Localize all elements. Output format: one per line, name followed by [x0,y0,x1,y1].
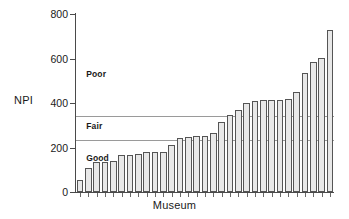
y-tick-800 [70,14,75,15]
y-tick-label-200: 200 [50,142,68,154]
bar [310,62,317,192]
x-tick [322,193,323,197]
x-tick [122,193,123,197]
x-tick [280,193,281,197]
x-tick [205,193,206,197]
x-tick [163,193,164,197]
x-tick [172,193,173,197]
bar [285,99,292,192]
bar [243,103,250,192]
bar [185,137,192,192]
bar [302,73,309,192]
bar [210,133,217,192]
bar [143,152,150,192]
bar [152,152,159,192]
bar [202,136,209,192]
x-tick [230,193,231,197]
bar [168,145,175,192]
x-tick [147,193,148,197]
y-tick-label-600: 600 [50,53,68,65]
y-tick-label-800: 800 [50,8,68,20]
x-tick [288,193,289,197]
x-tick [222,193,223,197]
bar [277,100,284,192]
y-tick-label-0: 0 [62,186,68,198]
x-tick [313,193,314,197]
bar [318,58,325,192]
x-tick [155,193,156,197]
bar [110,161,117,192]
bar [77,180,84,192]
bar-series [76,14,334,192]
bar [252,101,259,192]
y-axis-title: NPI [14,94,33,106]
x-tick [113,193,114,197]
x-tick [247,193,248,197]
x-tick [213,193,214,197]
bar [268,100,275,192]
x-tick [330,193,331,197]
x-tick [305,193,306,197]
bar [118,155,125,192]
bar [193,136,200,192]
bar [227,115,234,192]
x-tick [138,193,139,197]
x-tick [105,193,106,197]
bar [85,168,92,192]
bar [102,162,109,192]
bar [260,100,267,192]
bar [93,162,100,192]
y-tick-600 [70,59,75,60]
bar [160,152,167,192]
chart-figure: NPI Museum 0200400600800 PoorFairGood [0,0,349,219]
x-tick [272,193,273,197]
bar [293,92,300,192]
bar [135,154,142,192]
y-tick-400 [70,103,75,104]
y-tick-label-400: 400 [50,97,68,109]
y-tick-0 [70,192,75,193]
x-axis-title: Museum [0,199,349,211]
bar [235,110,242,192]
bar [327,30,334,192]
x-tick [80,193,81,197]
x-tick [97,193,98,197]
x-tick [88,193,89,197]
bar [127,155,134,192]
x-tick [255,193,256,197]
x-tick [197,193,198,197]
bar [218,122,225,192]
x-tick [180,193,181,197]
x-tick [297,193,298,197]
x-tick [263,193,264,197]
x-tick [130,193,131,197]
bar [177,138,184,193]
x-tick [188,193,189,197]
y-tick-200 [70,148,75,149]
x-tick [238,193,239,197]
